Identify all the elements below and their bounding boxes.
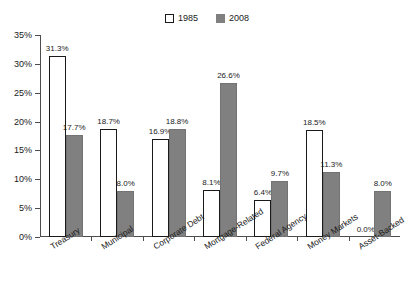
bar-group: 8.1%26.6% bbox=[194, 35, 245, 237]
legend-item-1985: 1985 bbox=[165, 14, 198, 23]
bar-2008 bbox=[220, 83, 237, 237]
bar-value-label: 17.7% bbox=[63, 124, 86, 132]
bar-value-label: 9.7% bbox=[271, 170, 289, 178]
bar-value-label: 18.5% bbox=[303, 119, 326, 127]
x-tick-mark bbox=[143, 237, 144, 241]
bar-value-label: 18.8% bbox=[166, 118, 189, 126]
legend-swatch-2008 bbox=[216, 14, 225, 23]
x-tick-mark bbox=[297, 237, 298, 241]
bar-2008 bbox=[66, 135, 83, 237]
y-tick-mark bbox=[35, 237, 40, 238]
y-tick-label: 25% bbox=[14, 88, 32, 98]
bar-group: 18.5%11.3% bbox=[297, 35, 348, 237]
y-tick-label: 20% bbox=[14, 117, 32, 127]
bar-value-label: 18.7% bbox=[97, 118, 120, 126]
bar-1985 bbox=[203, 190, 220, 237]
bar-group: 18.7%8.0% bbox=[91, 35, 142, 237]
legend-item-2008: 2008 bbox=[216, 14, 249, 23]
bar-group: 16.9%18.8% bbox=[143, 35, 194, 237]
y-tick-label: 35% bbox=[14, 30, 32, 40]
bar-value-label: 11.3% bbox=[320, 161, 342, 169]
x-tick-mark bbox=[349, 237, 350, 241]
bar-group: 6.4%9.7% bbox=[246, 35, 297, 237]
bar-value-label: 26.6% bbox=[217, 72, 240, 80]
bar-value-label: 6.4% bbox=[254, 189, 272, 197]
x-tick-mark bbox=[194, 237, 195, 241]
y-tick-label: 30% bbox=[14, 59, 32, 69]
y-tick-label: 0% bbox=[19, 232, 32, 242]
y-tick-label: 5% bbox=[19, 203, 32, 213]
y-tick-label: 15% bbox=[14, 145, 32, 155]
bar-value-label: 8.0% bbox=[117, 180, 135, 188]
legend-label-1985: 1985 bbox=[178, 14, 198, 23]
legend-label-2008: 2008 bbox=[229, 14, 249, 23]
bar-value-label: 8.0% bbox=[374, 180, 392, 188]
bar-value-label: 31.3% bbox=[46, 45, 69, 53]
y-tick-label: 10% bbox=[14, 174, 32, 184]
bar-1985 bbox=[49, 56, 66, 237]
bar-group: 31.3%17.7% bbox=[40, 35, 91, 237]
chart-legend: 1985 2008 bbox=[0, 14, 414, 23]
legend-swatch-1985 bbox=[165, 14, 174, 23]
bar-group: 0.0%8.0% bbox=[349, 35, 400, 237]
bar-1985 bbox=[100, 129, 117, 237]
bar-1985 bbox=[152, 139, 169, 237]
x-tick-mark bbox=[91, 237, 92, 241]
bar-value-label: 8.1% bbox=[202, 179, 220, 187]
plot-area: 0%5%10%15%20%25%30%35% 31.3%17.7%18.7%8.… bbox=[40, 35, 400, 237]
x-tick-mark bbox=[246, 237, 247, 241]
bar-2008 bbox=[169, 129, 186, 238]
bar-1985 bbox=[306, 130, 323, 237]
bar-chart: 1985 2008 0%5%10%15%20%25%30%35% 31.3%17… bbox=[0, 0, 414, 298]
